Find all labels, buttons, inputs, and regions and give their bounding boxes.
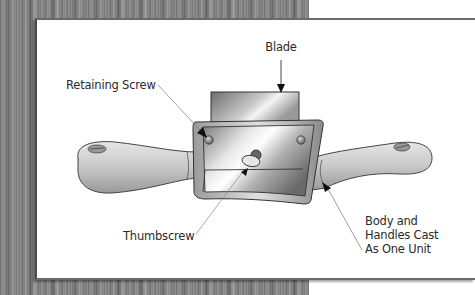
label-blade: Blade	[265, 40, 297, 54]
label-retaining-screw: Retaining Screw	[66, 78, 156, 92]
label-body-and-handles: Body and Handles Cast As One Unit	[365, 214, 438, 256]
retaining-screw-right	[297, 136, 305, 144]
label-thumbscrew: Thumbscrew	[123, 229, 194, 243]
body-leader	[322, 182, 362, 250]
label-body-line-3: As One Unit	[365, 242, 438, 256]
blade-leader	[277, 60, 285, 93]
label-body-line-1: Body and	[365, 214, 438, 228]
label-body-line-2: Handles Cast	[365, 228, 438, 242]
retaining-screw-leader	[158, 85, 207, 138]
right-handle	[312, 142, 432, 190]
blade	[211, 92, 299, 122]
left-handle	[78, 142, 207, 193]
